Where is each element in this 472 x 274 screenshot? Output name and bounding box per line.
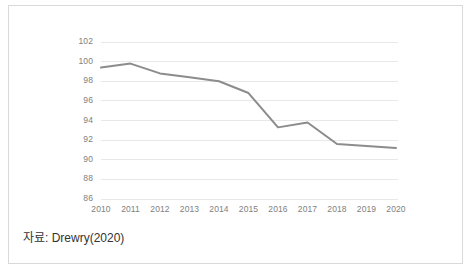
- y-axis-tick-label: 86: [59, 193, 93, 203]
- x-axis-tick-label: 2016: [263, 204, 293, 214]
- source-caption: 자료: Drewry(2020): [23, 228, 124, 245]
- x-axis-tick-label: 2015: [234, 204, 264, 214]
- x-axis-tick-label: 2012: [145, 204, 175, 214]
- y-axis-tick-label: 94: [59, 115, 93, 125]
- x-axis-tick-label: 2019: [352, 204, 382, 214]
- data-series-line: [101, 64, 396, 148]
- figure-container: 10210098969492908886 2010201120122013201…: [8, 5, 463, 264]
- y-axis-tick-label: 92: [59, 134, 93, 144]
- y-axis-tick-label: 102: [59, 36, 93, 46]
- x-axis-tick-label: 2018: [322, 204, 352, 214]
- x-axis-tick-label: 2014: [204, 204, 234, 214]
- y-axis-tick-label: 96: [59, 95, 93, 105]
- x-axis-tick-label: 2013: [175, 204, 205, 214]
- y-axis-tick-label: 98: [59, 75, 93, 85]
- y-axis-tick-label: 88: [59, 173, 93, 183]
- x-axis-tick-label: 2011: [116, 204, 146, 214]
- x-axis-tick-label: 2017: [293, 204, 323, 214]
- x-axis-tick-label: 2010: [86, 204, 116, 214]
- y-axis-tick-label: 90: [59, 154, 93, 164]
- y-axis-tick-label: 100: [59, 56, 93, 66]
- x-axis-tick-label: 2020: [381, 204, 411, 214]
